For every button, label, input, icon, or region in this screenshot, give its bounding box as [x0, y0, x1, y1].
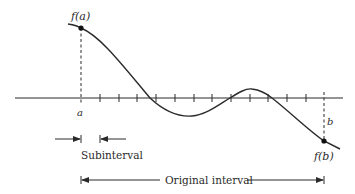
a-label: a: [77, 107, 83, 118]
interval-diagram: f(a) f(b) a b Subinterval Original inter…: [0, 0, 355, 194]
subinterval-indicator: [55, 135, 126, 143]
f-b-point: [321, 138, 326, 143]
b-label: b: [327, 116, 333, 127]
f-b-label: f(b): [313, 150, 334, 163]
f-a-point: [78, 25, 83, 30]
function-curve: [68, 24, 340, 149]
original-interval-label: Original interval: [165, 174, 254, 186]
subinterval-label: Subinterval: [81, 149, 143, 161]
f-a-label: f(a): [70, 10, 90, 23]
